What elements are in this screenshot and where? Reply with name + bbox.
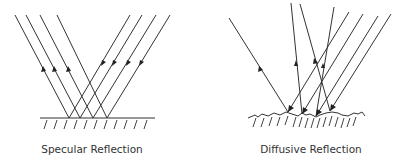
- reflected-rays: [229, 3, 334, 116]
- arrow-down-icon: [302, 107, 308, 114]
- arrow-down-icon: [101, 60, 106, 66]
- arrow-down-icon: [288, 105, 294, 112]
- surface-hatching: [44, 120, 147, 129]
- diffusive-caption: Diffusive Reflection: [260, 143, 362, 155]
- specular-diagram: [15, 15, 170, 129]
- arrow-down-icon: [126, 60, 131, 66]
- diffusive-diagram: [229, 3, 391, 128]
- reflection-diagrams: [0, 0, 403, 165]
- arrowheads: [41, 60, 144, 72]
- reflected-rays: [15, 15, 107, 118]
- rough-surface: [248, 112, 365, 118]
- arrow-down-icon: [139, 60, 144, 66]
- surface-hatching: [253, 116, 356, 128]
- arrow-down-icon: [330, 104, 336, 111]
- incident-rays: [288, 12, 391, 116]
- incident-rays: [69, 15, 170, 118]
- specular-caption: Specular Reflection: [41, 143, 142, 155]
- arrow-down-icon: [112, 60, 117, 66]
